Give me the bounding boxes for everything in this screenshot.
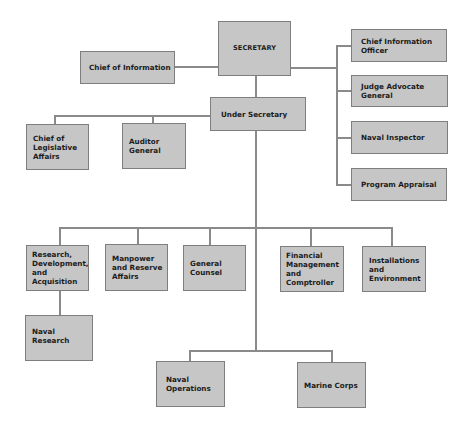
node-label-line: and [369,265,421,274]
node-manpower-reserve-affairs: Manpower and Reserve Affairs [105,244,168,291]
node-label-line: Comptroller [286,278,339,287]
node-label-line: Development, [32,259,89,268]
node-label-line: Naval [32,327,69,336]
node-label-line: Marine Corps [304,381,358,390]
node-label-line: Affairs [112,272,162,281]
connector-secretary-chief-of-information [174,66,218,68]
node-label-line: Research [32,336,69,345]
node-label-line: and Reserve [112,263,162,272]
node-label-line: Operations [166,384,211,393]
connector-naval-operations [189,350,191,361]
connector-bottom-row-bar [189,350,332,352]
node-label-line: Program Appraisal [361,180,437,189]
node-under-secretary: Under Secretary [210,97,306,131]
node-label-line: Research, [32,250,89,259]
node-label-line: Financial [286,251,339,260]
connector-auditor-general [152,115,154,123]
connector-middle-row-bar [59,227,392,229]
node-label-line: General [361,91,424,100]
node-secretary: SECRETARY [218,21,291,76]
node-naval-inspector: Naval Inspector [351,121,448,154]
node-naval-research: Naval Research [25,315,93,361]
node-label-line: General [190,259,222,268]
node-label-line: Judge Advocate [361,82,424,91]
connector-right-group-trunk [336,45,338,185]
connector-main-trunk [255,130,257,350]
node-marine-corps: Marine Corps [297,362,366,408]
connector-program-appraisal [336,184,351,186]
node-chief-of-information: Chief of Information [80,51,175,84]
node-label-line: Auditor [129,137,161,146]
connector-judge-advocate-general [336,90,351,92]
node-label-line: SECRETARY [233,44,276,53]
node-auditor-general: Auditor General [122,123,186,169]
connector-rda-naval-research [59,290,61,315]
org-chart: SECRETARY Chief of Information Under Sec… [0,0,469,427]
connector-naval-inspector [336,137,351,139]
node-label-line: Officer [361,46,432,55]
connector-chief-of-legislative-affairs [54,115,56,124]
node-label-line: Chief Information [361,37,432,46]
connector-manpower [137,227,139,244]
node-label-line: Under Secretary [221,110,287,119]
connector-general-counsel [209,227,211,245]
node-label-line: Environment [369,274,421,283]
node-label-line: Legislative [33,143,77,152]
node-label-line: Counsel [190,268,222,277]
connector-financial-management [310,227,312,246]
node-label-line: General [129,146,161,155]
node-label-line: Installations [369,256,421,265]
node-label-line: and [32,268,89,277]
node-general-counsel: General Counsel [183,245,246,291]
connector-rda [59,227,61,245]
node-label-line: Manpower [112,254,162,263]
connector-marine-corps [331,350,333,362]
node-label-line: Naval Inspector [361,133,425,142]
connector-secretary-right-group [290,67,337,69]
node-label-line: Chief of Information [89,63,171,72]
node-label-line: Naval [166,375,211,384]
node-label-line: and [286,269,339,278]
connector-installations [391,227,393,246]
node-research-development-acquisition: Research, Development, and Acquisition [26,245,89,291]
node-label-line: Management [286,260,339,269]
node-judge-advocate-general: Judge Advocate General [351,75,448,107]
node-naval-operations: Naval Operations [156,361,225,407]
node-installations-environment: Installations and Environment [362,246,426,292]
node-label-line: Chief of [33,134,77,143]
connector-secretary-under-secretary [255,75,257,97]
node-label-line: Acquisition [32,277,89,286]
node-program-appraisal: Program Appraisal [351,168,447,201]
connector-under-secretary-left-branch [54,115,210,117]
node-label-line: Affairs [33,152,77,161]
node-financial-management-comptroller: Financial Management and Comptroller [280,246,344,292]
connector-chief-information-officer [336,45,351,47]
node-chief-information-officer: Chief Information Officer [351,29,447,62]
node-chief-of-legislative-affairs: Chief of Legislative Affairs [26,124,89,170]
